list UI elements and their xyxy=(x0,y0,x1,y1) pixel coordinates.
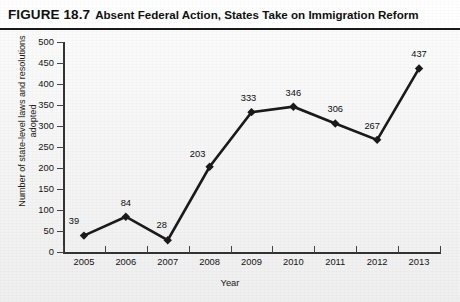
data-point-label: 346 xyxy=(268,88,318,98)
series-markers xyxy=(80,64,424,244)
data-point-label: 333 xyxy=(224,93,274,103)
series-marker xyxy=(289,102,297,110)
data-point-label: 203 xyxy=(173,149,223,159)
figure-number: FIGURE 18.7 xyxy=(8,7,90,22)
data-point-label: 306 xyxy=(310,104,360,114)
x-axis-title: Year xyxy=(0,277,460,288)
figure-container: FIGURE 18.7 Absent Federal Action, State… xyxy=(0,0,460,302)
series-marker xyxy=(331,119,339,127)
figure-title-band: FIGURE 18.7 Absent Federal Action, State… xyxy=(0,0,460,30)
data-point-label: 437 xyxy=(394,49,444,59)
series-marker xyxy=(80,231,88,239)
figure-caption: Absent Federal Action, States Take on Im… xyxy=(95,8,418,21)
data-point-label: 28 xyxy=(137,220,187,230)
line-series-svg xyxy=(0,30,460,302)
data-point-label: 267 xyxy=(347,121,397,131)
data-point-label: 84 xyxy=(101,198,151,208)
data-point-label: 39 xyxy=(49,216,99,226)
chart-plot-region: Number of state-level laws and resolutio… xyxy=(0,30,460,302)
